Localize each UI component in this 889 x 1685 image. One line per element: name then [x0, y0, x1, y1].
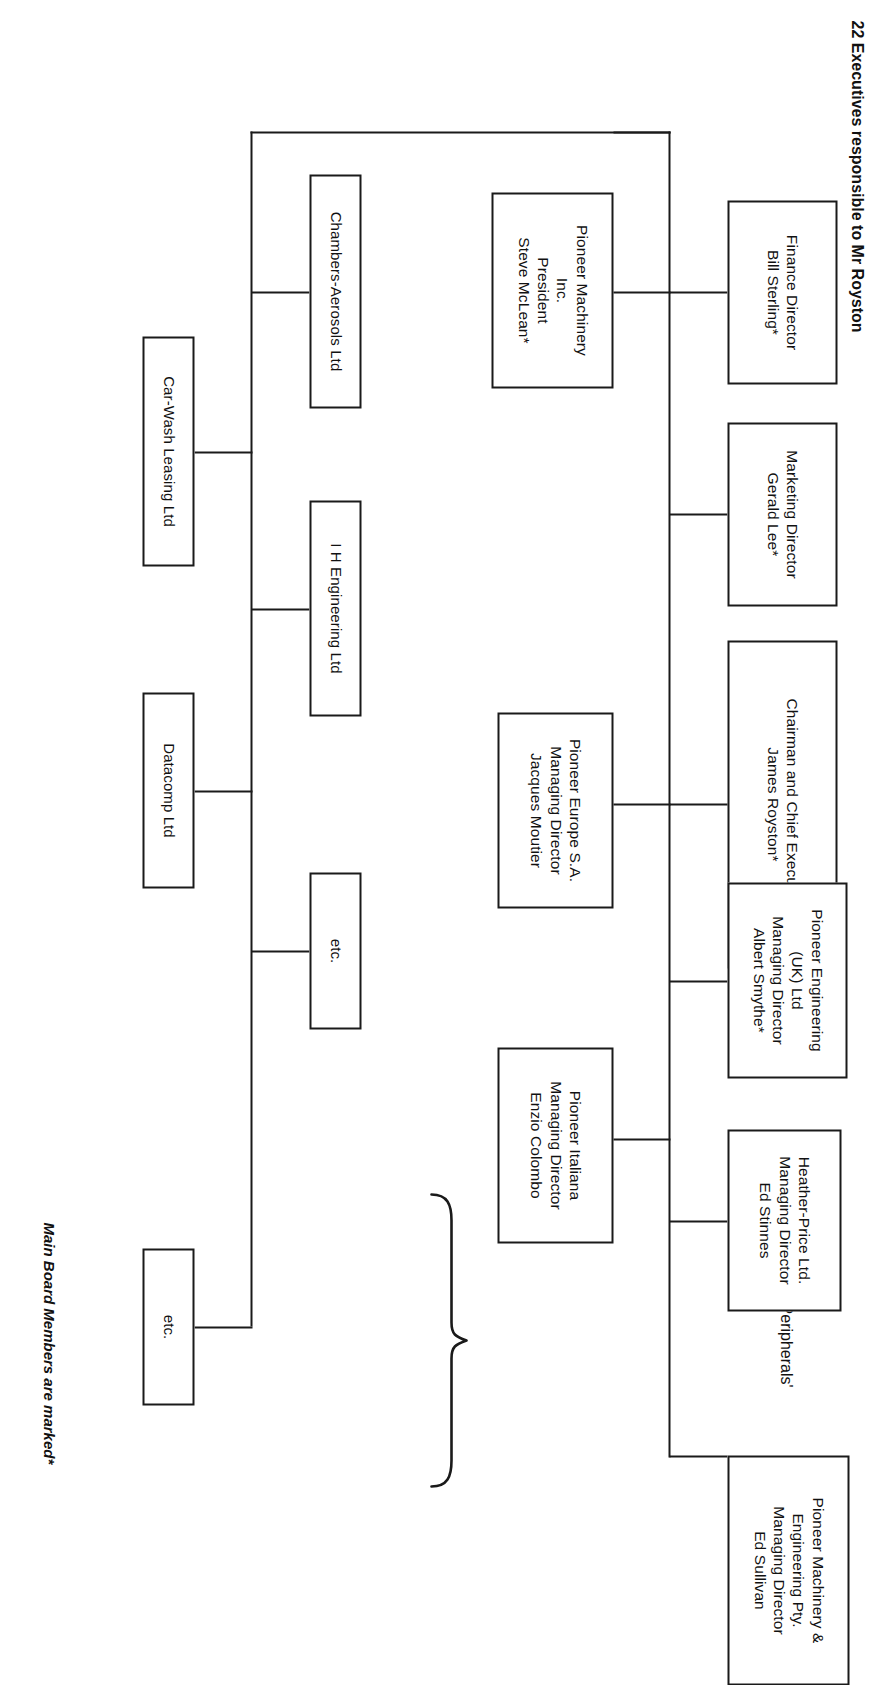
box-line: Heather-Price Ltd. [794, 1135, 813, 1305]
connector-trunk-right-cap [669, 1455, 727, 1457]
box-line: Pioneer Machinery [571, 198, 590, 382]
box-line: Marketing Director [782, 428, 801, 600]
box-ih-engineering[interactable]: I H Engineering Ltd [309, 500, 361, 716]
peripherals-label: 'Peripherals' [776, 1300, 794, 1387]
box-line: Gerald Lee* [763, 428, 782, 600]
page-title: 22 Executives responsible to Mr Royston [847, 20, 865, 332]
box-pioneer-machinery-engineering-pty[interactable]: Pioneer Machinery & Engineering Pty. Man… [727, 1455, 849, 1685]
box-marketing-director[interactable]: Marketing Director Gerald Lee* [727, 422, 837, 606]
box-line: Managing Director [774, 1135, 793, 1305]
box-line: Pioneer Machinery & [807, 1461, 826, 1679]
box-pioneer-italiana[interactable]: Pioneer Italiana Managing Director Enzio… [497, 1047, 613, 1243]
box-line: (UK) Ltd [787, 888, 806, 1072]
box-line: Ed Sullivan [749, 1461, 768, 1679]
connector-chambers [251, 291, 309, 293]
connector-europe [612, 803, 670, 805]
box-line: Car-Wash Leasing Ltd [159, 342, 178, 560]
box-line: Managing Director [768, 888, 787, 1072]
box-finance-director[interactable]: Finance Director Bill Sterling* [727, 200, 837, 384]
box-line: Bill Sterling* [763, 206, 782, 378]
box-line: Managing Director [545, 1053, 564, 1237]
connector-marketing [669, 513, 727, 515]
box-pioneer-engineering-uk[interactable]: Pioneer Engineering (UK) Ltd Managing Di… [727, 882, 847, 1078]
box-etc-lower[interactable]: etc. [142, 1248, 194, 1405]
connector-main-trunk [668, 131, 670, 1457]
box-line: Inc. [552, 198, 571, 382]
box-pioneer-europe[interactable]: Pioneer Europe S.A. Managing Director Ja… [497, 712, 613, 908]
peripherals-brace [427, 1190, 469, 1490]
connector-datacomp [194, 790, 252, 792]
box-line: Pioneer Europe S.A. [565, 718, 584, 902]
connector-etc1 [251, 950, 309, 952]
box-line: Finance Director [782, 206, 801, 378]
box-line: Pioneer Engineering [806, 888, 825, 1072]
box-line: Albert Smythe* [748, 888, 767, 1072]
connector-machinery-inc [612, 291, 670, 293]
box-line: President [533, 198, 552, 382]
box-car-wash-leasing[interactable]: Car-Wash Leasing Ltd [142, 336, 194, 566]
box-line: etc. [326, 878, 345, 1023]
box-line: Steve McLean* [513, 198, 532, 382]
box-line: Chambers-Aerosols Ltd [326, 180, 345, 402]
box-line: Ed Stinnes [755, 1135, 774, 1305]
box-line: etc. [159, 1254, 178, 1399]
connector-peripherals-trunk [250, 131, 252, 1326]
connector-root-stem [669, 803, 727, 805]
box-line: Managing Director [545, 718, 564, 902]
box-line: Engineering Pty. [788, 1461, 807, 1679]
connector-italiana [612, 1138, 670, 1140]
box-etc-upper[interactable]: etc. [309, 872, 361, 1029]
connector-uk [669, 980, 727, 982]
box-heather-price[interactable]: Heather-Price Ltd. Managing Director Ed … [727, 1129, 841, 1311]
box-line: Pioneer Italiana [565, 1053, 584, 1237]
footnote: Main Board Members are marked* [40, 1222, 57, 1464]
connector-carwash [194, 451, 252, 453]
connector-finance [669, 291, 727, 293]
box-line: I H Engineering Ltd [326, 506, 345, 710]
box-pioneer-machinery-inc[interactable]: Pioneer Machinery Inc. President Steve M… [491, 192, 613, 388]
box-datacomp[interactable]: Datacomp Ltd [142, 692, 194, 888]
box-line: Managing Director [769, 1461, 788, 1679]
connector-heather-price [669, 1220, 727, 1222]
connector-etc2 [194, 1326, 252, 1328]
box-line: Datacomp Ltd [159, 698, 178, 882]
connector-ihe [251, 608, 309, 610]
box-chambers-aerosols[interactable]: Chambers-Aerosols Ltd [309, 174, 361, 408]
connector-peripherals-down [250, 131, 670, 133]
box-line: Enzio Colombo [526, 1053, 545, 1237]
box-line: Jacques Moutier [526, 718, 545, 902]
